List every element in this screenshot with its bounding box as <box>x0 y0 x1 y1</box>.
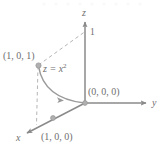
curve-equation-text: z = x <box>43 63 63 74</box>
point-label-1-0-0: (1, 0, 0) <box>41 132 73 142</box>
point-marker-1-0-0 <box>51 116 56 121</box>
point-marker-1-0-1 <box>36 63 41 68</box>
figure-3d-parabola: z y x 1 (1, 0, 1) (0, 0, 0) (1, 0, 0) z … <box>0 0 165 153</box>
point-label-1-0-1: (1, 0, 1) <box>3 51 35 61</box>
z-tick-label-one: 1 <box>90 28 95 38</box>
curve-equation-exponent: 2 <box>63 62 67 70</box>
curve-equation-label: z = x2 <box>43 64 67 74</box>
scan-artifact <box>42 2 141 5</box>
y-axis-label: y <box>152 98 156 108</box>
dashed-z-projection <box>39 32 85 65</box>
x-axis-label: x <box>16 133 20 143</box>
point-marker-0-0-0 <box>83 101 88 106</box>
point-label-0-0-0: (0, 0, 0) <box>88 87 120 97</box>
diagram-canvas <box>0 0 165 153</box>
z-axis-label: z <box>82 8 86 18</box>
x-axis <box>27 103 85 133</box>
dashed-x-projection <box>37 66 39 125</box>
